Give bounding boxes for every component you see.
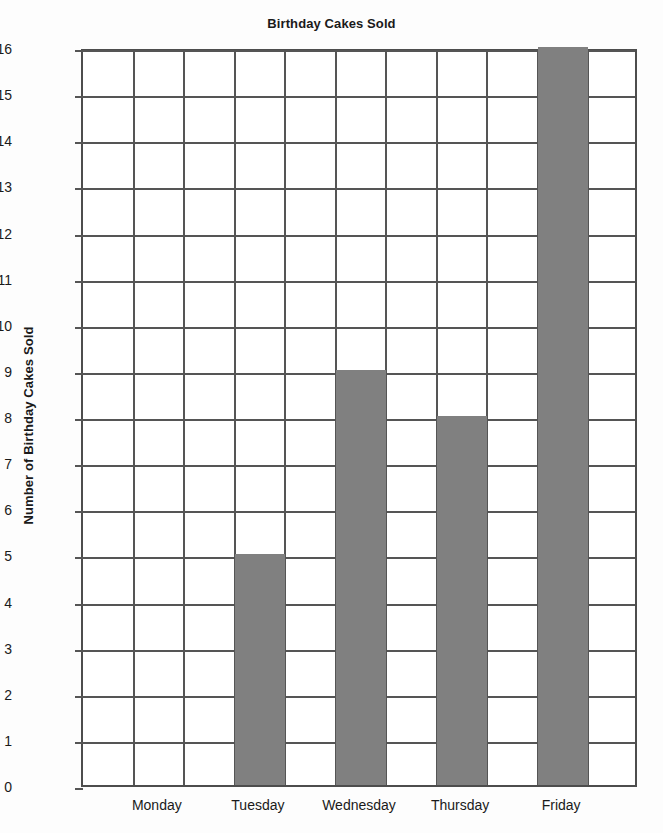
y-axis-tick-label: 9 — [0, 365, 12, 379]
y-axis-tick — [75, 419, 83, 421]
y-axis-tick-label: 13 — [0, 180, 12, 194]
y-axis-tick-label: 3 — [0, 642, 12, 656]
y-axis-tick-label: 0 — [0, 780, 12, 794]
y-axis-tick-label: 8 — [0, 411, 12, 425]
bar-wednesday — [336, 370, 387, 785]
y-axis-tick — [75, 511, 83, 513]
y-axis-tick — [75, 742, 83, 744]
bar-friday — [538, 47, 589, 785]
y-axis-tick — [75, 557, 83, 559]
y-axis-tick-label: 10 — [0, 319, 12, 333]
y-axis-tick-label: 12 — [0, 227, 12, 241]
y-axis-tick-label: 6 — [0, 503, 12, 517]
y-axis-tick — [75, 696, 83, 698]
gridline-vertical — [183, 51, 185, 785]
y-axis-tick — [75, 373, 83, 375]
y-axis-tick-label: 15 — [0, 88, 12, 102]
y-axis-tick — [75, 650, 83, 652]
chart-title: Birthday Cakes Sold — [0, 16, 663, 31]
y-axis-tick-label: 14 — [0, 134, 12, 148]
y-axis-tick — [75, 788, 83, 790]
y-axis-label: Number of Birthday Cakes Sold — [21, 276, 36, 576]
y-axis-tick-label: 7 — [0, 457, 12, 471]
y-axis-tick — [75, 281, 83, 283]
y-axis-tick — [75, 142, 83, 144]
y-axis-tick-label: 16 — [0, 42, 12, 56]
plot-area — [81, 49, 637, 787]
y-axis-tick-label: 5 — [0, 549, 12, 563]
y-axis-tick-label: 2 — [0, 688, 12, 702]
y-axis-tick-label: 11 — [0, 273, 12, 287]
y-axis-tick-label: 4 — [0, 596, 12, 610]
y-axis-tick — [75, 235, 83, 237]
y-axis-tick — [75, 604, 83, 606]
y-axis-tick — [75, 96, 83, 98]
bar-tuesday — [235, 554, 286, 785]
y-axis-tick — [75, 327, 83, 329]
gridline-vertical — [133, 51, 135, 785]
y-axis-tick — [75, 188, 83, 190]
bar-thursday — [437, 416, 488, 785]
y-axis-tick — [75, 465, 83, 467]
y-axis-tick-label: 1 — [0, 734, 12, 748]
x-axis-tick-label-friday: Friday — [501, 798, 621, 812]
y-axis-tick — [75, 50, 83, 52]
